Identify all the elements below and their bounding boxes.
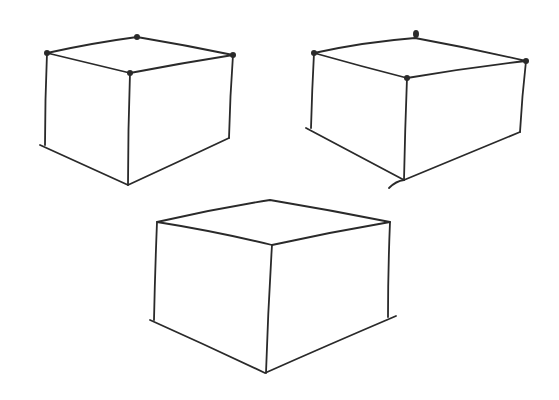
vertex-dot <box>44 50 50 56</box>
vertex-dot <box>311 50 317 56</box>
vertex-dot <box>413 30 419 38</box>
bottom-center-box <box>150 200 396 373</box>
vertex-dot <box>523 58 529 64</box>
top-left-box <box>40 34 236 185</box>
top-right-box <box>306 30 529 188</box>
box-sketch-canvas <box>0 0 559 400</box>
vertex-dot <box>230 52 236 58</box>
vertex-dot <box>127 70 133 76</box>
vertex-dot <box>134 34 140 40</box>
vertex-dot <box>404 75 410 81</box>
